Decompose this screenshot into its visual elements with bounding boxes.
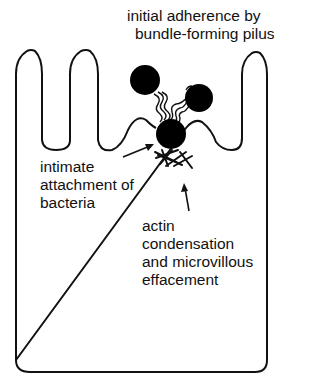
label-line: and microvillous	[142, 253, 253, 271]
arrow-to-actin-condensation	[181, 183, 189, 211]
label-line: bundle-forming pilus	[127, 25, 275, 43]
bacterium-upper-right	[185, 84, 213, 112]
label-line: condensation	[142, 235, 253, 253]
label-actin-condensation: actin condensation and microvillous effa…	[142, 217, 253, 289]
label-line: effacement	[142, 271, 253, 289]
label-line: intimate	[40, 158, 134, 176]
label-line: bacteria	[40, 194, 134, 212]
label-line: actin	[142, 217, 253, 235]
bacterium-attached	[156, 119, 186, 149]
label-line: attachment of	[40, 176, 134, 194]
label-line: initial adherence by	[127, 7, 275, 25]
label-initial-adherence: initial adherence by bundle-forming pilu…	[127, 7, 275, 43]
bacterium-upper-left	[130, 65, 160, 95]
actin-condensation	[155, 150, 192, 168]
arrow-to-attached-bacterium	[123, 144, 154, 157]
bundle-forming-pili	[154, 86, 192, 124]
label-intimate-attachment: intimate attachment of bacteria	[40, 158, 134, 212]
